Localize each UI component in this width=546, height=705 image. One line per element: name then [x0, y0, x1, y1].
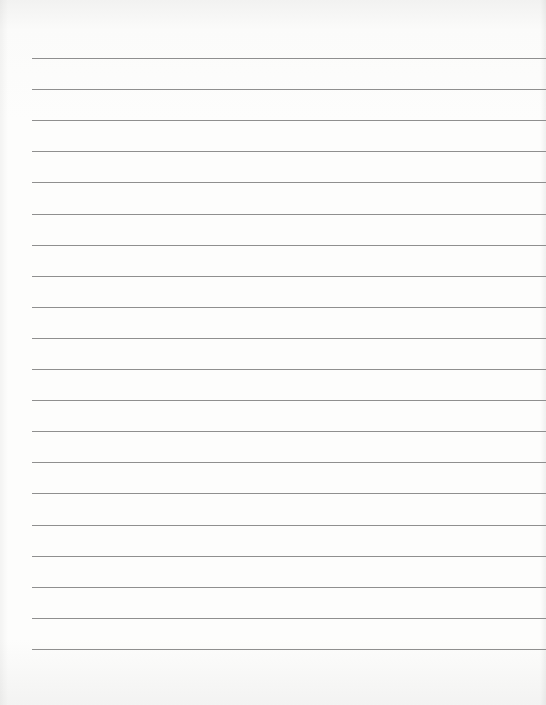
ruled-line — [32, 618, 546, 619]
paper-right-shadow — [540, 0, 546, 705]
ruled-line — [32, 462, 546, 463]
ruled-line — [32, 245, 546, 246]
ruled-line — [32, 151, 546, 152]
ruled-line — [32, 182, 546, 183]
ruled-line — [32, 276, 546, 277]
ruled-line — [32, 587, 546, 588]
ruled-line — [32, 307, 546, 308]
ruled-line — [32, 58, 546, 59]
ruled-line — [32, 400, 546, 401]
lined-paper-page — [0, 0, 546, 705]
ruled-line — [32, 649, 546, 650]
ruled-line — [32, 493, 546, 494]
paper-left-shadow — [0, 0, 8, 705]
ruled-line — [32, 120, 546, 121]
ruled-line — [32, 214, 546, 215]
ruled-line — [32, 525, 546, 526]
ruled-line — [32, 556, 546, 557]
ruled-line — [32, 431, 546, 432]
ruled-line — [32, 338, 546, 339]
ruled-line — [32, 369, 546, 370]
ruled-line — [32, 89, 546, 90]
